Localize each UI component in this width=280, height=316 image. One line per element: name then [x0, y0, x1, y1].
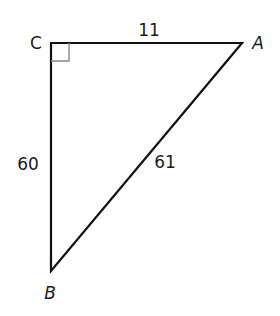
- triangle-svg: [0, 0, 280, 316]
- side-label-ab: 61: [154, 154, 176, 171]
- vertex-label-a: A: [252, 35, 264, 52]
- side-label-ca: 11: [138, 22, 160, 39]
- vertex-label-b: B: [44, 285, 56, 302]
- side-label-cb: 60: [17, 156, 39, 173]
- vertex-label-c: C: [30, 35, 42, 52]
- triangle-diagram: C A B 11 60 61: [0, 0, 280, 316]
- triangle-abc: [51, 43, 242, 271]
- right-angle-marker: [51, 43, 69, 61]
